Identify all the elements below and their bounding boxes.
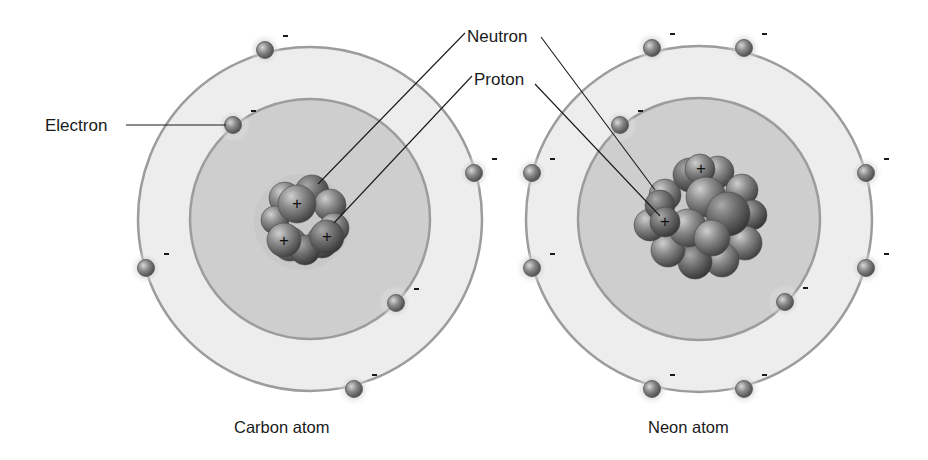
electron-minus-icon	[492, 158, 497, 160]
electron-minus-icon	[550, 253, 555, 255]
electron-sphere	[138, 260, 155, 277]
proton-plus-icon: +	[292, 194, 302, 213]
electron-minus-icon	[670, 374, 675, 376]
electron-minus-icon	[550, 158, 555, 160]
electron-minus-icon	[803, 287, 808, 289]
electron-minus-icon	[762, 374, 767, 376]
electron-minus-icon	[638, 110, 643, 112]
electron-sphere	[736, 40, 753, 57]
electron-minus-icon	[670, 33, 675, 35]
electron-sphere	[225, 117, 242, 134]
neon-atom: ++	[515, 31, 889, 406]
electron-minus-icon	[372, 374, 377, 376]
electron-sphere	[346, 381, 363, 398]
electron-sphere	[466, 165, 483, 182]
electron-sphere	[388, 295, 405, 312]
proton-label: Proton	[474, 71, 524, 88]
carbon-atom-caption: Carbon atom	[234, 419, 329, 436]
electron-sphere	[858, 260, 875, 277]
proton-plus-icon: +	[696, 159, 706, 178]
electron-minus-icon	[251, 110, 256, 112]
electron-sphere	[612, 117, 629, 134]
electron-sphere	[524, 260, 541, 277]
neon-atom-caption: Neon atom	[648, 419, 729, 436]
electron-minus-icon	[414, 288, 419, 290]
neutron-label: Neutron	[467, 28, 527, 45]
electron-sphere	[736, 381, 753, 398]
electron-minus-icon	[884, 158, 889, 160]
electron	[849, 156, 889, 190]
electron-minus-icon	[884, 253, 889, 255]
electron-sphere	[858, 165, 875, 182]
electron-label: Electron	[45, 117, 107, 134]
electron-sphere	[257, 42, 274, 59]
electron	[849, 251, 889, 285]
nucleon-sphere	[694, 220, 730, 256]
proton-plus-icon: +	[322, 227, 332, 246]
electron-sphere	[777, 294, 794, 311]
carbon-atom: +++	[129, 33, 497, 406]
electron-minus-icon	[762, 33, 767, 35]
electron-minus-icon	[283, 35, 288, 37]
proton-plus-icon: +	[660, 212, 670, 231]
electron	[457, 156, 497, 190]
electron-sphere	[644, 381, 661, 398]
proton-plus-icon: +	[279, 231, 289, 250]
electron-minus-icon	[164, 253, 169, 255]
electron-sphere	[524, 165, 541, 182]
electron-sphere	[644, 40, 661, 57]
atom-diagram: +++ ++	[0, 0, 928, 460]
